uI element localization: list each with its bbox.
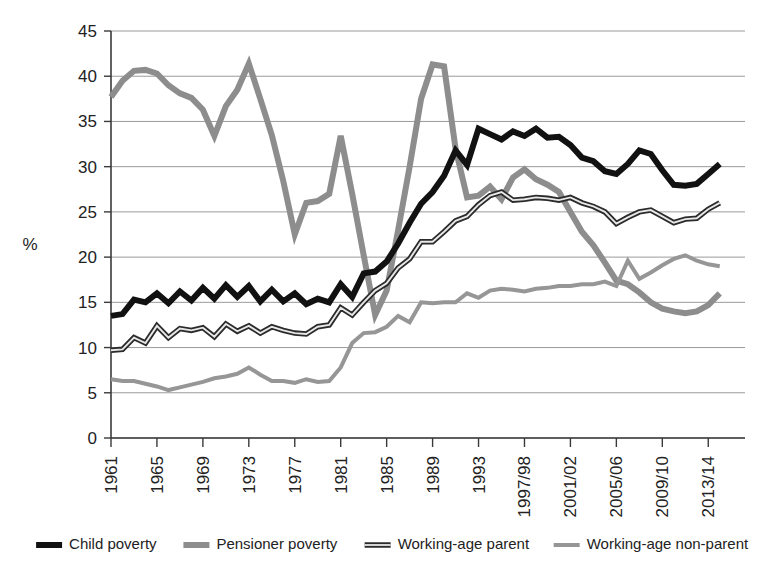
x-axis-ticks (111, 438, 708, 447)
x-tick-label-2009/10: 2009/10 (653, 456, 672, 517)
series-line-1 (111, 64, 720, 315)
y-axis-ticks (104, 31, 111, 438)
x-tick-label-1969: 1969 (194, 456, 213, 494)
x-tick-label-1977: 1977 (286, 456, 305, 494)
chart-svg: 051015202530354045 196119651969197319771… (0, 0, 771, 575)
y-tick-label-40: 40 (78, 67, 97, 86)
poverty-rate-line-chart: 051015202530354045 196119651969197319771… (0, 0, 771, 575)
legend-label-0: Child poverty (69, 535, 157, 552)
y-tick-label-0: 0 (88, 429, 97, 448)
y-tick-label-15: 15 (78, 293, 97, 312)
series-lines (111, 64, 720, 391)
x-tick-label-1985: 1985 (378, 456, 397, 494)
y-tick-label-20: 20 (78, 248, 97, 267)
x-tick-label-2001/02: 2001/02 (561, 456, 580, 517)
x-tick-label-1965: 1965 (148, 456, 167, 494)
legend-label-2: Working-age parent (398, 535, 530, 552)
chart-legend: Child povertyPensioner povertyWorking-ag… (36, 535, 749, 552)
x-tick-label-1981: 1981 (332, 456, 351, 494)
x-tick-label-1961: 1961 (102, 456, 121, 494)
x-tick-label-1989: 1989 (424, 456, 443, 494)
y-axis-tick-labels: 051015202530354045 (78, 22, 97, 448)
x-tick-label-2013/14: 2013/14 (699, 456, 718, 517)
y-tick-label-10: 10 (78, 339, 97, 358)
x-tick-label-1993: 1993 (470, 456, 489, 494)
y-tick-label-30: 30 (78, 158, 97, 177)
x-axis-tick-labels: 1961196519691973197719811985198919931997… (102, 456, 718, 517)
series-line-3 (111, 255, 720, 390)
y-tick-label-5: 5 (88, 384, 97, 403)
y-tick-label-25: 25 (78, 203, 97, 222)
x-tick-label-2005/06: 2005/06 (607, 456, 626, 517)
legend-label-3: Working-age non-parent (587, 535, 749, 552)
y-tick-label-35: 35 (78, 112, 97, 131)
y-tick-label-45: 45 (78, 22, 97, 41)
y-axis-title: % (22, 235, 37, 254)
gridlines (111, 31, 745, 438)
x-tick-label-1973: 1973 (240, 456, 259, 494)
legend-label-1: Pensioner poverty (216, 535, 337, 552)
x-tick-label-1997/98: 1997/98 (515, 456, 534, 517)
